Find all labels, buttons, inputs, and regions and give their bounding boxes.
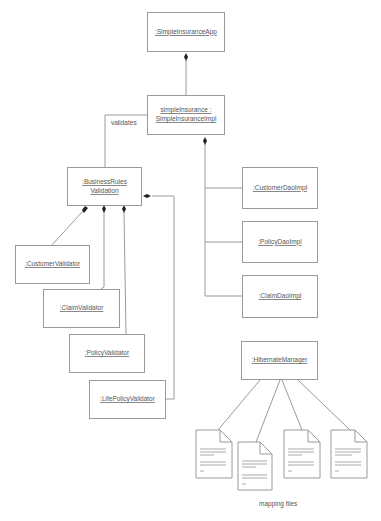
policy-dao-impl-node[interactable]: :PolicyDaoImpl [242, 221, 318, 263]
node-label: :SimpleInsuranceApp [155, 28, 217, 37]
mapping-file-icon [238, 442, 272, 490]
policy-validator-node[interactable]: :PolicyValidator [69, 334, 145, 373]
mapping-file-icon [196, 430, 232, 478]
node-label: :HibernateManager [252, 356, 308, 365]
node-label: :CustomerValidator [25, 260, 80, 269]
hibernate-manager-node[interactable]: :HibernateManager [241, 341, 318, 380]
node-label: :ClaimValidator [60, 304, 104, 313]
node-label: :PolicyValidator [85, 349, 129, 358]
customer-dao-impl-node[interactable]: :CustomerDaoImpl [242, 167, 318, 209]
composition-diamond [184, 53, 188, 61]
composition-diamond [102, 205, 106, 213]
claim-dao-impl-node[interactable]: :ClaimDaoImpl [242, 275, 318, 318]
node-label: :LifePolicyValidator [100, 395, 155, 404]
life-policy-validator-node[interactable]: :LifePolicyValidator [89, 380, 166, 419]
customer-validator-node[interactable]: :CustomerValidator [15, 245, 90, 284]
node-label: :CustomerDaoImpl [253, 184, 307, 193]
composition-diamond [143, 194, 151, 198]
composition-diamond [203, 137, 207, 145]
composition-diamond [122, 205, 126, 213]
mapping-file-icon [284, 430, 320, 478]
simple-insurance-app-node[interactable]: :SimpleInsuranceApp [147, 12, 225, 52]
simple-insurance-impl-node[interactable]: simpleInsurance :SimpleInsuranceImpl [147, 95, 225, 135]
composition-diamond [82, 206, 88, 213]
claim-validator-node[interactable]: :ClaimValidator [43, 289, 120, 328]
validates-label: validates [111, 119, 137, 126]
node-label: :BusinessRulesValidation [82, 178, 127, 196]
node-label: simpleInsurance :SimpleInsuranceImpl [156, 106, 217, 124]
mapping-file-icon [331, 430, 367, 478]
business-rules-validation-node[interactable]: :BusinessRulesValidation [67, 167, 142, 206]
mapping-files-label: mapping files [259, 500, 297, 507]
node-label: :ClaimDaoImpl [259, 292, 302, 301]
node-label: :PolicyDaoImpl [258, 238, 301, 247]
